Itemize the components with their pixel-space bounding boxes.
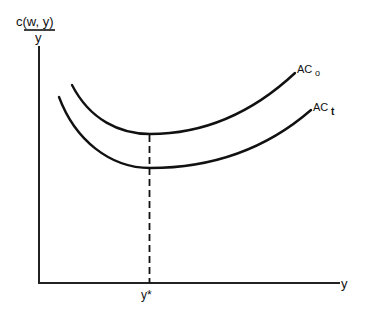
svg-text:AC: AC: [313, 101, 328, 113]
svg-text:t: t: [331, 106, 335, 117]
y-axis-label: c(w, y) y: [16, 14, 55, 45]
y-axis-label-numerator: c(w, y): [16, 14, 54, 29]
svg-text:AC: AC: [297, 63, 312, 75]
svg-text:o: o: [315, 68, 320, 78]
y-axis-label-denominator: y: [35, 30, 42, 45]
ac-t-curve: [59, 97, 311, 168]
ac-t-label: AC t: [313, 101, 335, 117]
ac-o-curve: [72, 73, 295, 134]
y-star-label: y*: [141, 288, 152, 302]
ac-o-label: AC o: [297, 63, 320, 78]
cost-curve-diagram: c(w, y) y y y* AC o AC t: [0, 0, 366, 316]
x-axis-label: y: [341, 276, 348, 291]
